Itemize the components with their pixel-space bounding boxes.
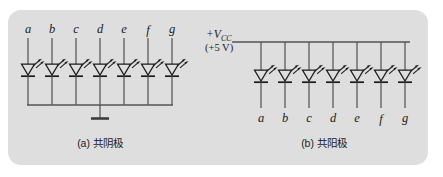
diagram-b-caption: (b) 共阳极 bbox=[301, 137, 348, 149]
diagram-b-label-a: a bbox=[258, 111, 264, 125]
diagram-a-caption: (a) 共阴极 bbox=[77, 137, 124, 149]
diagram-a-led-a bbox=[21, 60, 43, 76]
diagram-b-led-b bbox=[278, 66, 300, 82]
diagram-a-led-e bbox=[117, 60, 139, 76]
diagram-b-label-g: g bbox=[402, 111, 408, 125]
diagram-a-led-d bbox=[93, 60, 115, 76]
diagram-b-led-c bbox=[302, 66, 324, 82]
diagram-a-ground-symbol bbox=[91, 105, 109, 119]
diagram-b-common-anode: +V CC (+5 V) bbox=[205, 28, 420, 149]
diagram-b-supply-label: +V CC (+5 V) bbox=[205, 28, 234, 54]
diagram-a-label-d: d bbox=[97, 22, 104, 36]
diagram-a-led-g bbox=[165, 60, 187, 76]
diagram-a-label-e: e bbox=[121, 22, 127, 36]
circuit-figure: a b c d e f g bbox=[0, 0, 443, 177]
figure-root: a b c d e f g bbox=[0, 0, 443, 177]
diagram-b-led-e bbox=[350, 66, 372, 82]
diagram-a-label-a: a bbox=[25, 22, 31, 36]
diagram-a-common-cathode: a b c d e f g bbox=[21, 22, 187, 149]
diagram-a-label-f: f bbox=[146, 23, 151, 37]
diagram-b-led-f bbox=[374, 66, 396, 82]
diagram-a-label-g: g bbox=[169, 22, 175, 36]
diagram-b-label-c: c bbox=[306, 111, 312, 125]
diagram-a-label-b: b bbox=[49, 22, 55, 36]
supply-label-voltage: (+5 V) bbox=[205, 42, 234, 54]
diagram-b-cathode-wires bbox=[261, 82, 405, 108]
diagram-b-label-d: d bbox=[330, 111, 337, 125]
diagram-b-led-d bbox=[326, 66, 348, 82]
diagram-b-led-g bbox=[398, 66, 420, 82]
diagram-b-anode-wires bbox=[261, 42, 405, 70]
diagram-a-input-wires bbox=[28, 38, 172, 64]
diagram-a-label-c: c bbox=[73, 22, 79, 36]
diagram-a-led-c bbox=[69, 60, 91, 76]
diagram-a-led-b bbox=[45, 60, 67, 76]
diagram-b-label-b: b bbox=[282, 111, 288, 125]
diagram-b-led-a bbox=[254, 66, 276, 82]
diagram-a-cathode-wires bbox=[28, 76, 172, 105]
diagram-b-label-e: e bbox=[354, 111, 360, 125]
diagram-b-label-f: f bbox=[379, 112, 384, 126]
diagram-a-led-f bbox=[141, 60, 163, 76]
